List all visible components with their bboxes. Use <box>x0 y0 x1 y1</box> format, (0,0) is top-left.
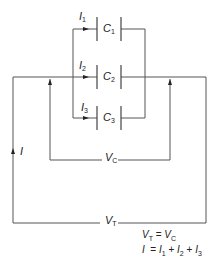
i3-arrow-icon <box>83 116 89 120</box>
i2-arrow-icon <box>83 75 89 79</box>
label-i1: I1 <box>79 11 86 23</box>
label-vt: VT <box>104 215 118 227</box>
label-vc: VC <box>104 152 118 164</box>
label-c2: C2 <box>103 71 115 83</box>
vc-right-arrow-icon <box>168 79 172 85</box>
vc-left-arrow-icon <box>48 79 52 85</box>
equation-voltage: VT = VC <box>142 229 202 244</box>
label-i3: I3 <box>81 102 88 114</box>
label-c1: C1 <box>103 23 115 35</box>
i1-arrow-icon <box>83 27 89 31</box>
label-total-current: I <box>20 146 23 157</box>
equation-current: I = I1 + I2 + I3 <box>142 244 202 259</box>
total-current-arrow-icon <box>11 148 15 154</box>
label-i2: I2 <box>79 60 86 72</box>
label-c3: C3 <box>103 112 115 124</box>
equation-block: VT = VC I = I1 + I2 + I3 <box>142 229 202 259</box>
